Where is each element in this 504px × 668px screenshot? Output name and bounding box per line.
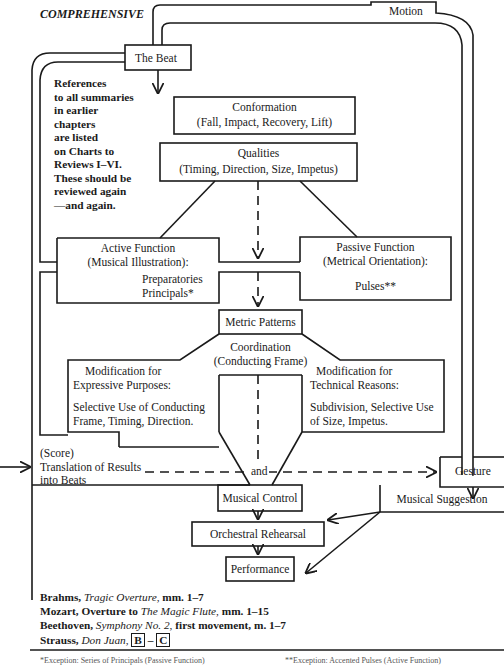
technical-line-2: of Size, Impetus. bbox=[310, 414, 388, 428]
active-function-title: Active Function bbox=[57, 241, 219, 255]
expressive-line-2: Frame, Timing, Direction. bbox=[73, 414, 193, 428]
side-note: References to all summaries in earlier c… bbox=[54, 77, 134, 212]
reference-item: Strauss, Don Juan, B – C bbox=[40, 633, 286, 647]
technical-title: Modification for bbox=[316, 364, 392, 378]
score-line-1: (Score) bbox=[40, 446, 74, 460]
beat-label: The Beat bbox=[135, 51, 177, 65]
reference-item: Mozart, Overture to The Magic Flute, mm.… bbox=[40, 604, 286, 618]
performance-label: Performance bbox=[226, 562, 294, 576]
score-line-2: Translation of Results bbox=[40, 460, 141, 474]
musical-control-label: Musical Control bbox=[218, 491, 302, 505]
passive-function-title: Passive Function bbox=[300, 240, 451, 254]
expressive-subtitle: Expressive Purposes: bbox=[73, 378, 171, 392]
orchestral-rehearsal-label: Orchestral Rehearsal bbox=[192, 527, 324, 541]
expressive-line-1: Selective Use of Conducting bbox=[73, 400, 205, 414]
gesture-label: Gesture bbox=[455, 464, 491, 478]
reference-item: Brahms, Tragic Overture, mm. 1–7 bbox=[40, 590, 286, 604]
conformation-title: Conformation bbox=[174, 100, 355, 114]
musical-suggestion-label: Musical Suggestion bbox=[380, 492, 504, 506]
rehearsal-mark-b: B bbox=[131, 633, 145, 647]
passive-item-pulses: Pulses** bbox=[300, 279, 451, 293]
active-function-detail: (Musical Illustration): bbox=[57, 255, 219, 269]
references-list: Brahms, Tragic Overture, mm. 1–7 Mozart,… bbox=[40, 590, 286, 647]
score-line-3: into Beats bbox=[40, 473, 86, 487]
technical-subtitle: Technical Reasons: bbox=[310, 378, 399, 392]
page-title: COMPREHENSIVE bbox=[40, 7, 144, 21]
footnote-right: **Exception: Accented Pulses (Active Fun… bbox=[285, 654, 441, 668]
active-item-principals: Principals* bbox=[142, 286, 194, 300]
metric-patterns-label: Metric Patterns bbox=[219, 315, 302, 329]
active-item-preparatories: Preparatories bbox=[142, 272, 203, 286]
qualities-detail: (Timing, Direction, Size, Impetus) bbox=[160, 162, 357, 176]
technical-line-1: Subdivision, Selective Use bbox=[310, 400, 434, 414]
rehearsal-mark-c: C bbox=[156, 633, 170, 647]
expressive-title: Modification for bbox=[85, 364, 161, 378]
reference-item: Beethoven, Symphony No. 2, first movemen… bbox=[40, 618, 286, 632]
and-label: and bbox=[250, 464, 269, 478]
conformation-detail: (Fall, Impact, Recovery, Lift) bbox=[174, 115, 355, 129]
qualities-title: Qualities bbox=[160, 146, 357, 160]
coordination-title: Coordination bbox=[200, 340, 321, 354]
coordination-detail: (Conducting Frame) bbox=[200, 354, 321, 368]
passive-function-detail: (Metrical Orientation): bbox=[300, 254, 451, 268]
footnote-left: *Exception: Series of Principals (Passiv… bbox=[40, 654, 205, 668]
motion-label: Motion bbox=[389, 4, 423, 18]
